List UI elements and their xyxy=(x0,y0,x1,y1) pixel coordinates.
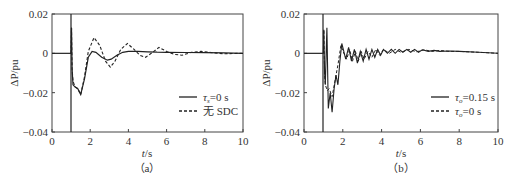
y-axis-label: ΔP/pu xyxy=(8,59,20,87)
x-tick-label: 4 xyxy=(379,135,385,147)
legend: τo=0.15 s τo=0 s xyxy=(431,91,495,119)
x-tick-label: 0 xyxy=(301,135,307,147)
x-axis-label: t/s xyxy=(396,147,406,159)
y-tick-labels: 0.020−0.02−0.04 xyxy=(275,8,307,138)
x-axis-label: t/s xyxy=(142,147,152,159)
y-tick-label: 0 xyxy=(43,47,49,59)
panel-caption: （a） xyxy=(134,162,161,174)
x-tick-label: 4 xyxy=(126,135,132,147)
figure-canvas: 0.020−0.02−0.04 0246810 ΔP/pu t/s （a） τs… xyxy=(0,0,505,181)
panel-caption: （b） xyxy=(387,162,415,174)
y-tick-label: −0.02 xyxy=(275,87,300,99)
series-line-solid xyxy=(71,28,243,95)
y-axis-label: ΔP/pu xyxy=(260,59,272,87)
legend-label-solid: τo=0.15 s xyxy=(455,91,495,105)
legend-label-solid: τs=0 s xyxy=(203,91,228,105)
legend-label-dashed: 无 SDC xyxy=(203,105,238,117)
x-tick-label: 8 xyxy=(202,135,208,147)
x-tick-label: 0 xyxy=(49,135,55,147)
y-tick-label: 0 xyxy=(295,47,301,59)
x-tick-label: 6 xyxy=(418,135,424,147)
y-tick-labels: 0.020−0.02−0.04 xyxy=(23,8,55,138)
chart-panel-a: 0.020−0.02−0.04 0246810 ΔP/pu t/s （a） τs… xyxy=(8,8,249,174)
x-tick-label: 8 xyxy=(456,135,462,147)
y-tick-label: −0.04 xyxy=(275,126,301,138)
y-tick-label: −0.02 xyxy=(23,87,48,99)
x-tick-labels: 0246810 xyxy=(49,135,249,147)
x-tick-label: 2 xyxy=(340,135,346,147)
x-tick-labels: 0246810 xyxy=(301,135,504,147)
y-tick-label: 0.02 xyxy=(29,8,48,20)
x-tick-label: 6 xyxy=(164,135,170,147)
legend-label-dashed: τo=0 s xyxy=(455,105,481,119)
series-line-dashed xyxy=(323,30,498,97)
x-tick-label: 10 xyxy=(238,135,250,147)
x-tick-label: 2 xyxy=(87,135,93,147)
y-tick-label: 0.02 xyxy=(281,8,300,20)
legend: τs=0 s 无 SDC xyxy=(179,91,238,117)
y-tick-label: −0.04 xyxy=(23,126,49,138)
series-line-dashed xyxy=(71,28,243,95)
chart-panel-b: 0.020−0.02−0.04 0246810 ΔP/pu t/s （b） τo… xyxy=(260,8,504,174)
x-tick-label: 10 xyxy=(493,135,505,147)
